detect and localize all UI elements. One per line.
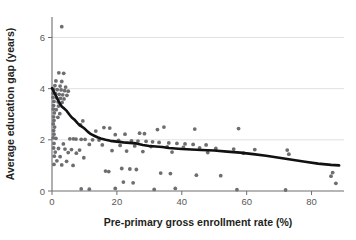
data-point [121, 180, 125, 184]
data-point [162, 125, 166, 129]
data-point [52, 115, 56, 119]
data-point [61, 93, 65, 97]
data-point [71, 164, 75, 168]
data-point [144, 139, 148, 143]
data-point [64, 85, 68, 89]
y-tick-label: 2 [40, 134, 45, 145]
data-point [125, 149, 129, 153]
data-point [78, 148, 82, 152]
data-point [100, 143, 104, 147]
y-tick-label: 6 [40, 32, 45, 43]
data-point [110, 149, 114, 153]
data-point [52, 162, 56, 166]
data-point [131, 181, 135, 185]
data-point [237, 127, 241, 131]
data-point [284, 188, 288, 192]
x-tick-label: 80 [306, 196, 317, 207]
data-point [54, 79, 58, 83]
data-point [253, 148, 257, 152]
data-point [82, 156, 86, 160]
data-point [57, 147, 61, 151]
data-point [94, 129, 98, 133]
data-point [58, 112, 62, 116]
data-point [62, 97, 66, 101]
data-point [113, 133, 117, 137]
data-point [60, 163, 64, 167]
data-point [55, 88, 59, 92]
x-tick-label: 0 [49, 196, 54, 207]
data-point [57, 71, 61, 75]
data-point [63, 89, 67, 93]
data-point [56, 115, 60, 119]
data-point [123, 132, 127, 136]
data-point [91, 138, 95, 142]
data-point [59, 88, 63, 92]
data-point [167, 141, 171, 145]
data-point [156, 128, 160, 132]
data-point [108, 126, 112, 130]
data-point [53, 125, 57, 129]
data-point [128, 167, 132, 171]
data-point [52, 104, 56, 108]
data-point [120, 167, 124, 171]
data-point [87, 187, 91, 191]
data-point [169, 172, 173, 176]
data-point [183, 142, 187, 146]
data-point [138, 131, 142, 135]
data-point [52, 111, 56, 115]
data-point [170, 150, 174, 154]
data-point [66, 89, 70, 93]
data-point [191, 143, 195, 147]
data-point [193, 127, 197, 131]
data-point [334, 181, 338, 185]
data-point [57, 92, 61, 96]
data-point [58, 155, 62, 159]
data-point [70, 148, 74, 152]
data-point [51, 95, 55, 99]
data-point [173, 187, 177, 191]
data-point [157, 140, 161, 144]
data-point [204, 143, 208, 147]
data-point [107, 170, 111, 174]
data-point [102, 126, 106, 130]
data-point [52, 146, 56, 150]
data-point [52, 129, 56, 133]
data-point [61, 142, 65, 146]
data-point [53, 150, 57, 154]
data-point [60, 25, 64, 29]
data-point [54, 108, 58, 112]
y-axis-title: Average education gap (years) [4, 28, 16, 181]
data-point [287, 152, 291, 156]
data-point [74, 151, 78, 155]
y-tick-label: 4 [40, 83, 45, 94]
data-point [83, 137, 87, 141]
y-tick-label: 0 [40, 186, 45, 197]
data-point [141, 150, 145, 154]
data-point [65, 93, 69, 97]
data-point [79, 137, 83, 141]
data-point [235, 188, 239, 192]
data-point [118, 144, 122, 148]
data-point [151, 140, 155, 144]
data-point [175, 142, 179, 146]
data-point [81, 119, 85, 123]
data-point [194, 173, 198, 177]
data-point [104, 169, 108, 173]
data-point [113, 187, 117, 191]
data-point [285, 148, 289, 152]
x-tick-label: 60 [241, 196, 252, 207]
data-point [52, 142, 56, 146]
data-point [68, 137, 72, 141]
data-point [74, 137, 78, 141]
x-tick-label: 40 [176, 196, 187, 207]
data-point [52, 132, 56, 136]
data-point [232, 147, 236, 151]
data-point [52, 100, 56, 104]
data-point [87, 143, 91, 147]
data-point [53, 84, 57, 88]
data-point [79, 187, 83, 191]
data-point [52, 118, 56, 122]
data-point [331, 171, 335, 175]
data-point [55, 159, 59, 163]
data-point [60, 80, 64, 84]
